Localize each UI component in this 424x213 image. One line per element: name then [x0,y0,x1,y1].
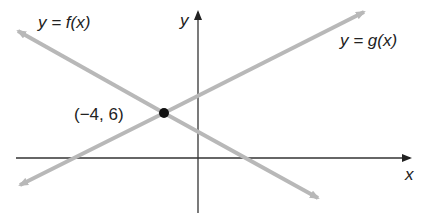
line-f-lower [164,113,318,198]
label-y-axis: y [179,11,190,30]
intersection-point [159,108,169,118]
line-g-upper [164,12,364,113]
label-intersection: (−4, 6) [74,105,124,124]
label-x-axis: x [404,165,414,184]
graph: y = f(x) y y = g(x) (−4, 6) x [0,0,424,213]
label-f: y = f(x) [37,13,90,32]
label-g: y = g(x) [339,31,397,50]
line-f [18,31,164,113]
